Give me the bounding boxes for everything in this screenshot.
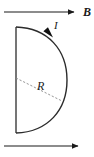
magnetic-field-label: B [83, 6, 91, 18]
radius-label: R [37, 80, 44, 92]
diagram-canvas [0, 0, 94, 157]
current-label: I [54, 20, 58, 31]
physics-diagram-figure: B I R [0, 0, 94, 157]
